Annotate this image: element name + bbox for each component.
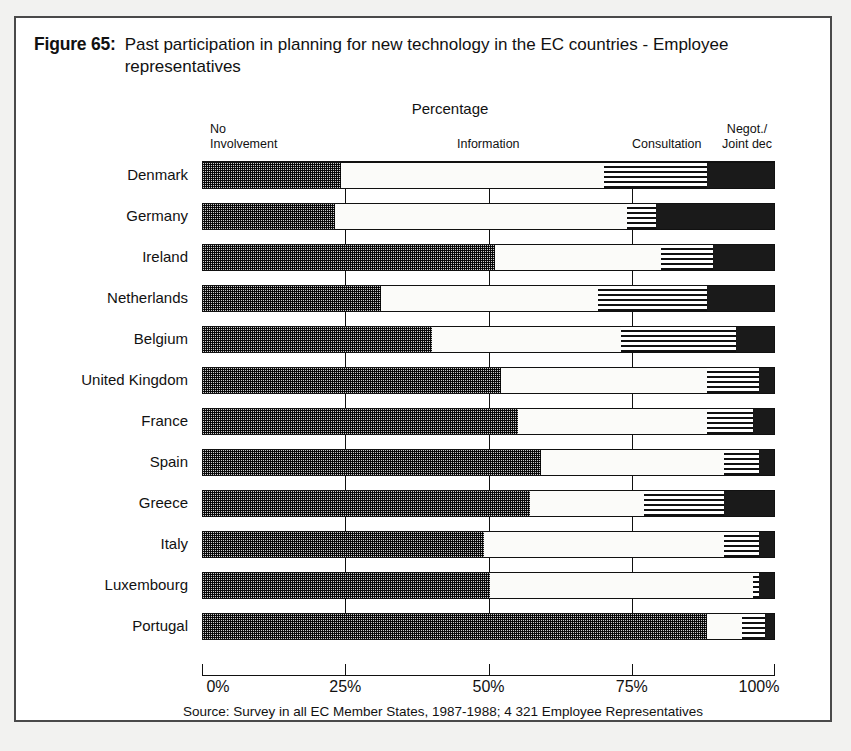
bar-segment-consultation <box>742 614 766 639</box>
bar-segment-consultation <box>604 163 708 188</box>
bar-segment-no-involvement <box>203 532 485 557</box>
x-axis-tick-labels: 0%25%50%75%100% <box>202 678 775 702</box>
chart-row <box>202 531 775 558</box>
bar-segment-information <box>490 573 755 598</box>
gridline-25 <box>345 230 346 244</box>
segment-header-2: Information <box>457 122 520 152</box>
segment-header-line2: Consultation <box>632 137 702 152</box>
chart-row <box>202 367 775 394</box>
source-note: Source: Survey in all EC Member States, … <box>16 704 834 719</box>
chart-row <box>202 572 775 599</box>
chart-plot-area <box>202 162 775 662</box>
segment-header-line1 <box>632 122 702 137</box>
gridline-75 <box>632 599 633 613</box>
bar-segment-negotiation <box>724 491 775 516</box>
row-gap <box>202 558 775 572</box>
country-label-netherlands: Netherlands <box>16 289 196 306</box>
bar-segment-information <box>341 163 606 188</box>
axis-tick-50 <box>489 664 490 675</box>
bar-segment-information <box>381 286 600 311</box>
bar-segment-negotiation <box>713 245 775 270</box>
country-label-france: France <box>16 412 196 429</box>
segment-header-line1: No <box>210 122 277 137</box>
gridline-50 <box>489 599 490 613</box>
row-gap <box>202 435 775 449</box>
stacked-bar[interactable] <box>202 408 775 435</box>
gridline-75 <box>632 189 633 203</box>
percentage-caption-text: Percentage <box>412 100 489 117</box>
axis-tick-75 <box>632 664 633 675</box>
row-gap <box>202 230 775 244</box>
bar-segment-no-involvement <box>203 409 519 434</box>
x-tick-label-0: 0% <box>206 678 229 696</box>
chart-row <box>202 162 775 189</box>
gridline-75 <box>632 517 633 531</box>
segment-header-line2: Involvement <box>210 137 277 152</box>
gridline-25 <box>345 394 346 408</box>
title-block: Figure 65: Past participation in plannin… <box>34 34 814 79</box>
country-label-spain: Spain <box>16 453 196 470</box>
bar-segment-information <box>432 327 622 352</box>
figure-number: Figure 65: <box>34 34 116 55</box>
bar-segment-no-involvement <box>203 204 336 229</box>
bar-segment-negotiation <box>736 327 775 352</box>
bar-segment-negotiation <box>753 409 775 434</box>
stacked-bar[interactable] <box>202 613 775 640</box>
row-gap <box>202 476 775 490</box>
bar-segment-negotiation <box>707 286 775 311</box>
stacked-bar[interactable] <box>202 531 775 558</box>
gridline-25 <box>345 476 346 490</box>
bar-segment-consultation <box>724 532 759 557</box>
gridline-75 <box>632 230 633 244</box>
bar-segment-no-involvement <box>203 368 502 393</box>
x-tick-label-25: 25% <box>329 678 361 696</box>
gridline-75 <box>632 353 633 367</box>
bar-segment-no-involvement <box>203 327 433 352</box>
x-tick-label-75: 75% <box>616 678 648 696</box>
stacked-bar[interactable] <box>202 572 775 599</box>
country-label-luxembourg: Luxembourg <box>16 576 196 593</box>
stacked-bar[interactable] <box>202 285 775 312</box>
bar-segment-information <box>518 409 708 434</box>
axis-tick-25 <box>345 664 346 675</box>
bar-segment-negotiation <box>656 204 775 229</box>
gridline-25 <box>345 558 346 572</box>
row-gap <box>202 353 775 367</box>
bar-segment-negotiation <box>759 368 775 393</box>
bar-segment-no-involvement <box>203 245 496 270</box>
chart-row <box>202 613 775 640</box>
row-gap <box>202 312 775 326</box>
row-gap <box>202 517 775 531</box>
segment-header-line1 <box>457 122 520 137</box>
bar-segment-negotiation <box>759 532 775 557</box>
stacked-bar[interactable] <box>202 244 775 271</box>
x-tick-label-50: 50% <box>472 678 504 696</box>
segment-header-4: Negot./Joint dec <box>722 122 772 152</box>
stacked-bar[interactable] <box>202 203 775 230</box>
stacked-bar[interactable] <box>202 449 775 476</box>
segment-header-line1: Negot./ <box>722 122 772 137</box>
bar-segment-no-involvement <box>203 450 542 475</box>
bar-segment-consultation <box>621 327 737 352</box>
stacked-bar[interactable] <box>202 326 775 353</box>
bar-segment-no-involvement <box>203 614 708 639</box>
bar-segment-no-involvement <box>203 286 382 311</box>
bar-segment-information <box>484 532 726 557</box>
bar-segment-consultation <box>707 409 754 434</box>
gridline-25 <box>345 435 346 449</box>
stacked-bar[interactable] <box>202 490 775 517</box>
gridline-50 <box>489 312 490 326</box>
chart-row <box>202 449 775 476</box>
gridline-50 <box>489 394 490 408</box>
country-label-ireland: Ireland <box>16 248 196 265</box>
gridline-25 <box>345 353 346 367</box>
source-note-text: Source: Survey in all EC Member States, … <box>183 704 703 719</box>
bar-segment-negotiation <box>759 573 775 598</box>
gridline-50 <box>489 230 490 244</box>
stacked-bar[interactable] <box>202 162 775 189</box>
figure-panel: Figure 65: Past participation in plannin… <box>14 16 832 722</box>
bar-segment-information <box>501 368 708 393</box>
chart-row <box>202 203 775 230</box>
chart-row <box>202 326 775 353</box>
stacked-bar[interactable] <box>202 367 775 394</box>
